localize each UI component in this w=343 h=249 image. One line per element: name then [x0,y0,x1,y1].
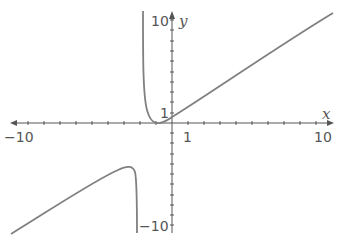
lower-branch-curve [11,167,137,234]
x-min-label: −10 [4,129,34,145]
y-min-label: −10 [139,218,169,234]
y-axis-up-arrow-icon [169,11,175,19]
y-axis [169,11,175,233]
y-one-label: 1 [160,105,169,121]
y-max-label: 10 [151,13,169,29]
y-axis-label: y [178,12,188,30]
x-one-label: 1 [183,129,192,145]
x-axis-label: x [322,105,331,123]
x-axis-left-arrow-icon [10,120,17,126]
x-max-label: 10 [314,129,332,145]
chart-canvas: −10 1 10 x 10 y 1 −10 [0,0,343,249]
